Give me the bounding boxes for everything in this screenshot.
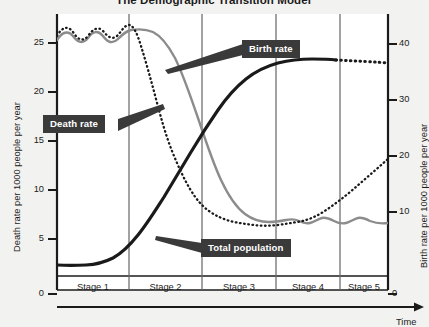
left-tick-5: 5 <box>26 233 44 243</box>
left-axis-title: Death rate per 1000 people per year <box>12 102 22 252</box>
right-tick-0: 0 <box>392 288 397 298</box>
left-tick-10: 10 <box>26 184 44 194</box>
left-axis-ticks <box>48 43 57 294</box>
stage-label-4: Stage 4 <box>276 282 340 292</box>
total-population-callout: Total population <box>201 239 291 257</box>
left-tick-25: 25 <box>26 37 44 47</box>
left-tick-0: 0 <box>26 288 44 298</box>
death-rate-callout: Death rate <box>43 115 105 133</box>
left-tick-20: 20 <box>26 86 44 96</box>
x-axis-arrowhead <box>414 303 424 312</box>
right-tick-20: 20 <box>399 150 409 160</box>
right-axis-title: Birth rate per 1000 people per year <box>419 124 429 268</box>
right-tick-30: 30 <box>399 94 409 104</box>
stage-label-3: Stage 3 <box>202 282 276 292</box>
stage-label-2: Stage 2 <box>129 282 202 292</box>
right-axis-ticks <box>388 44 397 294</box>
right-tick-10: 10 <box>399 206 409 216</box>
stage-label-1: Stage 1 <box>57 282 129 292</box>
right-tick-40: 40 <box>399 38 409 48</box>
birth-rate-callout: Birth rate <box>242 40 300 58</box>
left-tick-15: 15 <box>26 135 44 145</box>
stage-label-5: Stage 5 <box>340 282 388 292</box>
x-axis-title: Time <box>396 317 416 327</box>
